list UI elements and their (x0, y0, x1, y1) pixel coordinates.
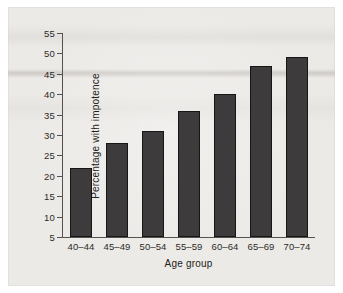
y-axis-tick-mark (57, 237, 62, 238)
x-axis-tick-label: 60–64 (212, 241, 239, 252)
bar-series (63, 33, 315, 237)
bar (286, 57, 308, 237)
y-axis-tick-mark (57, 176, 62, 177)
bar (142, 131, 164, 237)
x-axis-tick-label: 55–59 (176, 241, 203, 252)
bar-slot (106, 33, 128, 237)
bar (106, 143, 128, 237)
y-axis-title-container: Percentage with impotence (14, 33, 30, 238)
y-axis-tick-label: 25 (44, 150, 55, 161)
x-axis-tick-label: 65–69 (248, 241, 275, 252)
bar-chart-figure: Percentage with impotence 51015202530354… (0, 0, 343, 293)
bar (250, 66, 272, 237)
y-axis-tick-label: 20 (44, 170, 55, 181)
x-axis-tick-label: 50–54 (140, 241, 167, 252)
y-axis-tick-mark (57, 196, 62, 197)
x-axis-tick-label: 45–49 (104, 241, 131, 252)
y-axis-tick-label: 55 (44, 28, 55, 39)
y-axis-tick-mark (57, 33, 62, 34)
bar-slot (178, 33, 200, 237)
y-axis-tick-label: 30 (44, 130, 55, 141)
x-axis-title: Age group (62, 258, 315, 269)
y-axis-tick-mark (57, 74, 62, 75)
x-axis-tick-label: 70–74 (284, 241, 311, 252)
y-axis-tick-mark (57, 155, 62, 156)
bar-slot (214, 33, 236, 237)
x-axis-tick-label: 40–44 (68, 241, 95, 252)
y-axis-tick-label: 40 (44, 89, 55, 100)
plot-area: 510152025303540455055 40–4445–4950–5455–… (62, 33, 315, 237)
y-axis-tick-mark (57, 135, 62, 136)
bar-slot (286, 33, 308, 237)
bar-slot (70, 33, 92, 237)
y-axis-tick-label: 45 (44, 68, 55, 79)
x-axis-line (62, 237, 315, 238)
y-axis-tick-label: 50 (44, 48, 55, 59)
y-axis-tick-label: 35 (44, 109, 55, 120)
y-axis-tick-mark (57, 53, 62, 54)
y-axis-tick-label: 10 (44, 211, 55, 222)
bar-slot (250, 33, 272, 237)
bar-slot (142, 33, 164, 237)
y-axis-tick-label: 5 (50, 232, 55, 243)
y-axis-tick-mark (57, 217, 62, 218)
y-axis-tick-mark (57, 94, 62, 95)
y-axis-tick-label: 15 (44, 191, 55, 202)
y-axis-tick-mark (57, 115, 62, 116)
bar (214, 94, 236, 237)
bar (70, 168, 92, 237)
bar (178, 111, 200, 237)
